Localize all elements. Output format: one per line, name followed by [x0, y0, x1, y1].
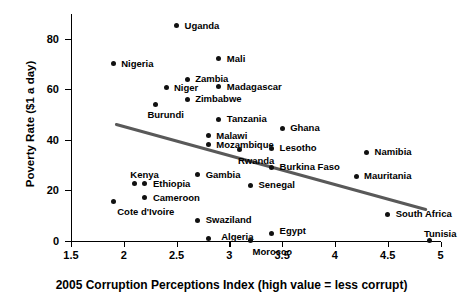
x-tick-mark — [124, 242, 125, 247]
data-point[interactable] — [153, 102, 158, 107]
x-axis-line — [71, 241, 441, 242]
data-point[interactable] — [216, 117, 221, 122]
data-point-label: Senegal — [258, 180, 294, 190]
data-point-label: Uganda — [185, 21, 220, 31]
data-point-label: Mali — [227, 54, 245, 64]
x-tick-label: 4.5 — [368, 250, 408, 261]
data-point[interactable] — [354, 174, 359, 179]
x-tick-label: 2.5 — [157, 250, 197, 261]
data-point[interactable] — [248, 238, 253, 243]
data-point-label: Ethiopia — [153, 179, 190, 189]
data-point[interactable] — [111, 199, 116, 204]
data-point[interactable] — [185, 77, 190, 82]
data-point[interactable] — [385, 212, 390, 217]
data-point[interactable] — [195, 172, 200, 177]
data-point-label: Burkina Faso — [280, 162, 340, 172]
y-tick-mark — [65, 89, 71, 90]
data-point[interactable] — [195, 218, 200, 223]
scatter-chart: 020406080 1.522.533.544.55 UgandaMaliNig… — [0, 0, 463, 307]
y-tick-mark — [65, 140, 71, 141]
data-point[interactable] — [164, 85, 169, 90]
x-tick-mark — [177, 242, 178, 247]
data-point-label: Gambia — [206, 170, 241, 180]
y-tick-label: 20 — [33, 185, 59, 196]
data-point[interactable] — [206, 236, 211, 241]
data-point[interactable] — [142, 195, 147, 200]
data-point-label: Rwanda — [238, 156, 274, 166]
x-tick-mark — [441, 242, 442, 247]
data-point[interactable] — [216, 56, 221, 61]
y-tick-label: 0 — [33, 236, 59, 247]
data-point-label: Mauritania — [364, 171, 412, 181]
data-point[interactable] — [216, 84, 221, 89]
data-point-label: Lesotho — [280, 143, 317, 153]
y-tick-label: 80 — [33, 34, 59, 45]
x-tick-mark — [388, 242, 389, 247]
data-point-label: South Africa — [396, 209, 452, 219]
y-tick-label: 40 — [33, 135, 59, 146]
x-tick-mark — [229, 242, 230, 247]
data-point-label: Nigeria — [121, 59, 153, 69]
data-point[interactable] — [206, 142, 211, 147]
data-point-label: Swaziland — [206, 215, 252, 225]
data-point[interactable] — [142, 181, 147, 186]
data-point-label: Cameroon — [153, 193, 200, 203]
y-axis-title: Poverty Rate ($1 a day) — [24, 24, 36, 224]
data-point-label: Niger — [174, 83, 198, 93]
data-point-label: Cote d'Ivoire — [117, 207, 174, 217]
data-point-label: Tunisia — [424, 229, 457, 239]
data-point-label: Egypt — [280, 226, 306, 236]
data-point-label: Namibia — [375, 147, 412, 157]
plot-area: 020406080 1.522.533.544.55 UgandaMaliNig… — [0, 0, 463, 307]
data-point[interactable] — [269, 146, 274, 151]
x-tick-label: 4 — [315, 250, 355, 261]
data-point-label: Morocco — [252, 247, 292, 257]
data-point-label: Burundi — [147, 110, 183, 120]
data-point[interactable] — [206, 133, 211, 138]
data-point-label: Ghana — [290, 123, 320, 133]
data-point[interactable] — [364, 150, 369, 155]
x-tick-label: 2 — [104, 250, 144, 261]
data-point[interactable] — [427, 238, 432, 243]
x-tick-label: 1.5 — [51, 250, 91, 261]
data-point[interactable] — [111, 61, 116, 66]
x-tick-label: 5 — [421, 250, 461, 261]
y-tick-mark — [65, 190, 71, 191]
data-point[interactable] — [269, 231, 274, 236]
data-point[interactable] — [248, 183, 253, 188]
data-point-label: Tanzania — [227, 114, 267, 124]
x-tick-mark — [335, 242, 336, 247]
y-tick-mark — [65, 39, 71, 40]
data-point-label: Mozambique — [216, 140, 274, 150]
data-point[interactable] — [185, 97, 190, 102]
y-axis-line — [71, 14, 72, 242]
x-axis-title: 2005 Corruption Perceptions Index (high … — [0, 278, 463, 292]
data-point[interactable] — [269, 165, 274, 170]
data-point-label: Zambia — [195, 74, 228, 84]
data-point[interactable] — [280, 126, 285, 131]
data-point-label: Madagascar — [227, 82, 282, 92]
x-tick-mark — [71, 242, 72, 247]
data-point[interactable] — [132, 181, 137, 186]
y-tick-label: 60 — [33, 84, 59, 95]
data-point-label: Zimbabwe — [195, 94, 241, 104]
data-point[interactable] — [174, 23, 179, 28]
x-tick-label: 3 — [209, 250, 249, 261]
data-point[interactable] — [237, 147, 242, 152]
